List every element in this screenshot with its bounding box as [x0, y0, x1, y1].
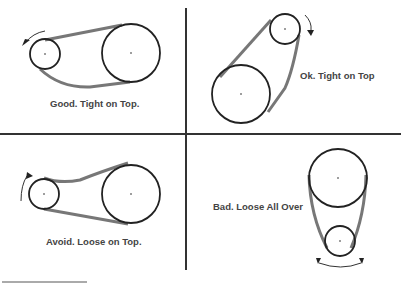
rotation-arrow-icon — [21, 176, 27, 201]
rotation-arrow-icon — [305, 15, 311, 30]
caption-ok: Ok. Tight on Top — [300, 70, 375, 81]
oscillation-arrow-icon — [319, 263, 361, 267]
caption-avoid: Avoid. Loose on Top. — [46, 236, 142, 247]
pulley-diagram-bad — [309, 149, 367, 267]
caption-good: Good. Tight on Top. — [50, 98, 139, 109]
pulley-diagram-avoid — [21, 163, 160, 224]
caption-bad: Bad. Loose All Over — [213, 201, 303, 212]
pulley-diagram-good — [22, 24, 160, 87]
pulley-diagram-ok — [212, 14, 314, 123]
